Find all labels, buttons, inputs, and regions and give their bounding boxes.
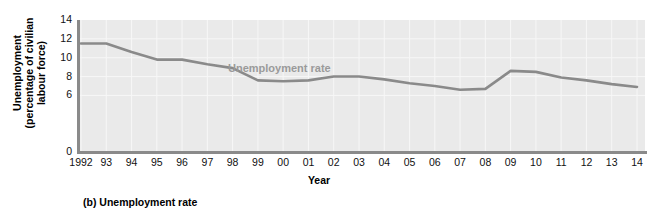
vertical-gridlines <box>81 20 637 152</box>
plot-area <box>79 20 645 152</box>
y-axis-tick-label: 12 <box>42 32 72 44</box>
x-axis-tick-label: 02 <box>328 156 340 168</box>
x-axis-tick-label: 98 <box>227 156 239 168</box>
x-axis-tick-label: 93 <box>100 156 112 168</box>
plot-inner <box>79 20 645 152</box>
line-chart-svg <box>79 20 645 152</box>
x-axis-tick-label: 95 <box>151 156 163 168</box>
figure-unemployment-rate: Unemployment (percentage of civilian lab… <box>0 0 658 221</box>
figure-caption: (b) Unemployment rate <box>83 196 197 208</box>
x-axis-tick-label: 10 <box>530 156 542 168</box>
x-axis-tick-label: 07 <box>454 156 466 168</box>
horizontal-gridlines <box>79 39 645 152</box>
x-axis-tick-label: 00 <box>277 156 289 168</box>
x-axis-tick-label: 1992 <box>69 156 92 168</box>
x-axis-line <box>77 151 647 154</box>
y-axis-tick-labels: 141210860 <box>40 0 72 170</box>
x-axis-tick-label: 97 <box>202 156 214 168</box>
x-axis-tick-label: 12 <box>581 156 593 168</box>
x-axis-tick-label: 06 <box>429 156 441 168</box>
x-axis-tick-label: 99 <box>252 156 264 168</box>
y-axis-tick-label: 6 <box>42 88 72 100</box>
x-axis-tick-label: 94 <box>126 156 138 168</box>
y-axis-tick-label: 0 <box>42 145 72 157</box>
y-axis-line <box>77 20 80 153</box>
x-axis-title-text: Year <box>308 174 330 186</box>
x-axis-title: Year <box>0 174 658 186</box>
y-axis-tick-label: 8 <box>42 70 72 82</box>
x-axis-tick-label: 03 <box>353 156 365 168</box>
x-axis-tick-label: 11 <box>556 156 567 168</box>
x-axis-tick-label: 96 <box>176 156 188 168</box>
y-axis-tick-label: 14 <box>42 13 72 25</box>
x-axis-tick-label: 01 <box>303 156 315 168</box>
x-axis-tick-label: 13 <box>606 156 618 168</box>
x-axis-tick-label: 05 <box>404 156 416 168</box>
series-annotation-label: Unemployment rate <box>228 62 331 74</box>
x-axis-tick-label: 09 <box>505 156 517 168</box>
x-axis-tick-label: 08 <box>480 156 492 168</box>
y-axis-tick-label: 10 <box>42 51 72 63</box>
x-axis-tick-label: 04 <box>378 156 390 168</box>
x-axis-tick-label: 14 <box>631 156 643 168</box>
